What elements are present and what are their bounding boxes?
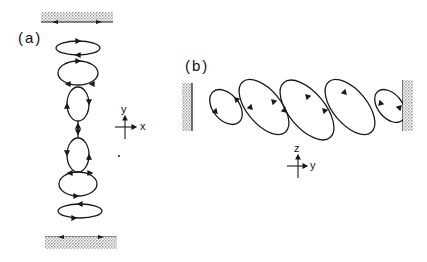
loop-a6 (58, 204, 102, 218)
loop-b3 (270, 71, 344, 149)
panel-a-label: (a) (18, 29, 42, 46)
loop-b2 (230, 71, 298, 143)
axis-a-vertical-label: y (121, 103, 127, 115)
loop-a3 (67, 87, 89, 121)
axis-b-vertical-label: z (294, 142, 300, 154)
dot-marker (118, 155, 120, 157)
bottom-wall (45, 235, 117, 249)
left-wall (182, 83, 192, 131)
right-wall (403, 80, 413, 131)
loop-a2 (58, 61, 98, 85)
loop-b4 (316, 71, 384, 143)
loops-b (203, 71, 411, 149)
panel-b-label: (b) (185, 57, 209, 74)
axis-a-horizontal-label: x (140, 120, 146, 132)
diagram-canvas (0, 0, 427, 262)
loops-a (56, 39, 102, 220)
top-wall (41, 12, 113, 24)
loop-b1 (203, 83, 249, 130)
axes-a (115, 116, 136, 139)
axis-b-horizontal-label: y (310, 159, 316, 171)
loop-a1 (56, 41, 100, 55)
loop-a5 (59, 172, 97, 196)
loop-a4 (67, 138, 89, 172)
panel-b (182, 71, 413, 178)
axes-b (287, 155, 307, 178)
panel-a (41, 12, 136, 249)
